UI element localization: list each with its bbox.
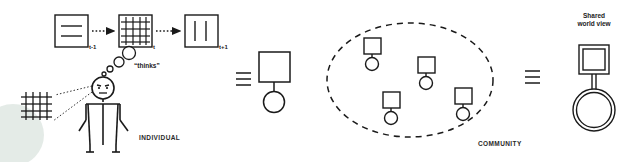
- state-box-t-plus-1: [185, 15, 218, 47]
- caption-community: COMMUNITY: [478, 140, 522, 147]
- thought-bubble-chain: [102, 47, 136, 77]
- state-box-t: [119, 15, 152, 47]
- diagram-canvas: t-1 t t+1 “thinks” INDIVIDUAL COMMUNITY …: [0, 0, 625, 162]
- state-label-t: t: [153, 44, 155, 50]
- thinks-label: “thinks”: [134, 62, 160, 69]
- shared-world-view-symbol: [573, 45, 615, 131]
- observed-grid: [21, 92, 52, 120]
- equivalence-sign-shared: [525, 71, 540, 83]
- community-boundary: [327, 23, 493, 137]
- community-member-3: [383, 92, 400, 125]
- diagram-vector-layer: [0, 0, 625, 162]
- caption-individual: INDIVIDUAL: [139, 134, 180, 141]
- community-member-2: [418, 57, 435, 90]
- state-label-t-minus-1: t-1: [89, 44, 96, 50]
- state-box-t-minus-1: [55, 15, 88, 47]
- shared-world-view-label-line1: Shared: [583, 12, 605, 19]
- equivalence-sign-individual: [236, 73, 251, 85]
- individual-figure: [79, 77, 128, 152]
- community-member-4: [455, 88, 472, 121]
- state-label-t-plus-1: t+1: [219, 44, 228, 50]
- community-member-1: [364, 38, 381, 71]
- shared-world-view-label: Shared world view: [560, 12, 625, 28]
- shared-world-view-label-line2: world view: [577, 20, 610, 27]
- individual-symbol: [259, 52, 290, 113]
